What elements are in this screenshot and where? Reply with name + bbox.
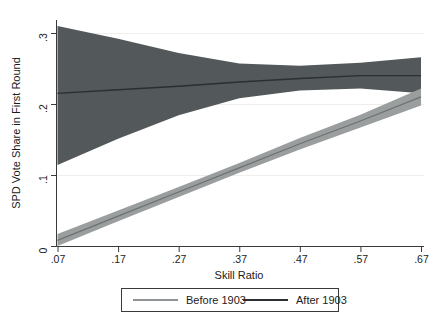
y-tick-label: 0 [37, 247, 49, 253]
y-tick-label: .2 [37, 104, 49, 113]
y-axis-title: SPD Vote Share in First Round [10, 57, 22, 209]
x-axis-title: Skill Ratio [215, 269, 264, 281]
x-tick-label: .27 [172, 253, 187, 265]
chart-legend: Before 1903 After 1903 [122, 289, 347, 312]
x-tick-label: .17 [111, 253, 126, 265]
y-tick-label: .3 [37, 33, 49, 42]
x-tick-label: .37 [232, 253, 247, 265]
x-tick-label: .67 [414, 253, 429, 265]
chart-figure: 0.1.2.3 .07.17.27.37.47.57.67 SPD Vote S… [0, 0, 438, 325]
x-tick-label: .57 [354, 253, 369, 265]
y-tick-label: .1 [37, 175, 49, 184]
x-tick-label: .47 [293, 253, 308, 265]
x-tick-label: .07 [51, 253, 66, 265]
legend-label-after-1903: After 1903 [296, 294, 347, 306]
legend-label-before-1903: Before 1903 [186, 294, 246, 306]
